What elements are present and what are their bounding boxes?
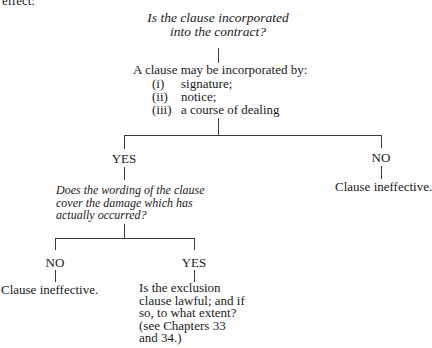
- root-question: Is the clause incorporated into the cont…: [147, 11, 288, 39]
- header-fragment-text: effect:: [2, 0, 35, 9]
- incorporation-list: (i)signature; (ii)notice; (iii)a course …: [152, 77, 280, 116]
- incorporation-intro: A clause may be incorporated by:: [133, 63, 307, 77]
- connector-to-no: [381, 135, 382, 148]
- wording-question: Does the wording of the clause cover the…: [56, 184, 205, 222]
- second-no-outcome: Clause ineffective.: [1, 282, 98, 298]
- lawfulness-line-5: and 34.): [139, 332, 245, 345]
- root-question-line-2: into the contract?: [147, 25, 288, 39]
- connector-second-no-outcome: [55, 270, 56, 282]
- second-yes-label: YES: [182, 255, 207, 271]
- second-no-label: NO: [46, 255, 65, 271]
- branch-yes-label: YES: [112, 151, 137, 167]
- connector-yes-question: [124, 167, 125, 180]
- connector-to-yes: [124, 135, 125, 149]
- item-number: (iii): [152, 103, 181, 116]
- first-split-bar: [124, 135, 382, 136]
- root-question-line-1: Is the clause incorporated: [147, 11, 288, 25]
- connector-root-to-incorporation: [218, 48, 219, 63]
- lawfulness-question: Is the exclusion clause lawful; and if s…: [139, 282, 245, 345]
- branch-no-outcome: Clause ineffective.: [335, 179, 432, 195]
- wording-question-line-3: actually occurred?: [56, 209, 205, 222]
- second-split-bar: [55, 238, 195, 239]
- wording-question-line-1: Does the wording of the clause: [56, 184, 205, 197]
- incorporation-item: (iii)a course of dealing: [152, 103, 280, 116]
- connector-to-second-split: [124, 224, 125, 239]
- connector-to-second-no: [55, 238, 56, 250]
- connector-to-first-split: [218, 118, 219, 136]
- branch-no-label: NO: [372, 150, 391, 166]
- item-text: a course of dealing: [181, 102, 280, 117]
- connector-to-second-yes: [194, 238, 195, 250]
- connector-no-outcome: [381, 166, 382, 179]
